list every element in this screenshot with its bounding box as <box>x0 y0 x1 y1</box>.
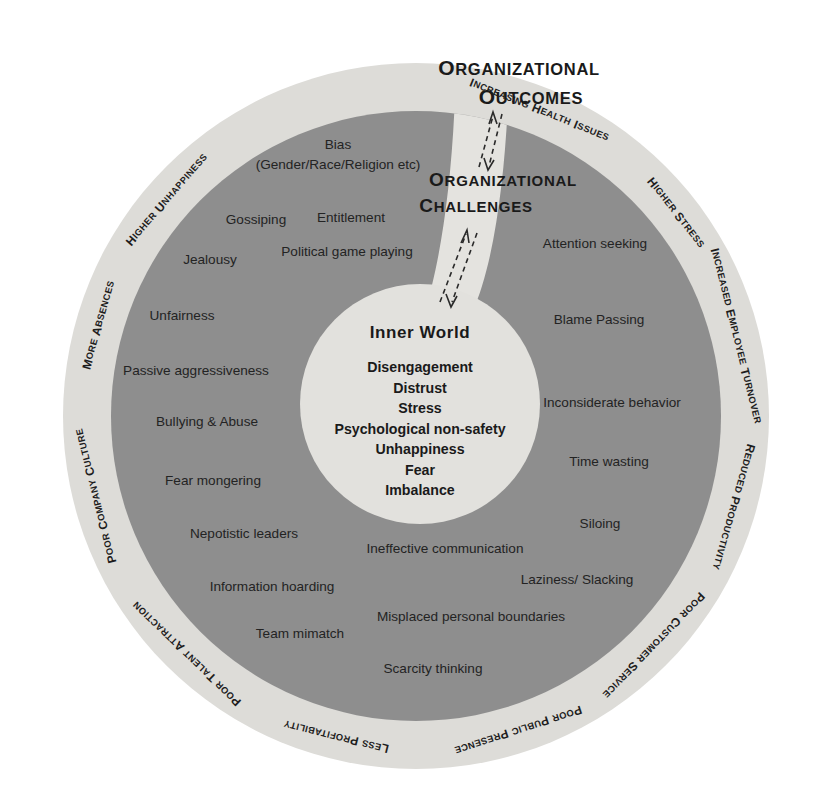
challenge-label: Political game playing <box>281 244 412 259</box>
challenge-label: Fear mongering <box>165 473 261 488</box>
challenge-label: Ineffective communication <box>367 541 524 556</box>
challenge-label: Nepotistic leaders <box>190 526 298 541</box>
challenge-label: Jealousy <box>183 252 237 267</box>
challenge-label: Bullying & Abuse <box>156 414 258 429</box>
challenge-label: (Gender/Race/Religion etc) <box>256 157 421 172</box>
challenges-line-2: CHALLENGES <box>419 195 532 216</box>
challenge-label: Inconsiderate behavior <box>543 395 681 410</box>
challenge-label: Gossiping <box>226 212 286 227</box>
challenge-label: Information hoarding <box>210 579 335 594</box>
challenge-label: Team mimatch <box>256 626 344 641</box>
inner-world-item: Stress <box>398 400 441 416</box>
challenge-label: Entitlement <box>317 210 385 225</box>
challenge-label: Attention seeking <box>543 236 647 251</box>
challenge-label: Blame Passing <box>554 312 645 327</box>
diagram-canvas: INCREASING HEALTH ISSUESHIGHER STRESSINC… <box>0 0 828 807</box>
challenge-label: Bias <box>325 137 352 152</box>
challenge-label: Siloing <box>580 516 621 531</box>
challenge-label: Misplaced personal boundaries <box>377 609 565 624</box>
inner-world-item: Imbalance <box>385 482 455 498</box>
inner-world-item: Distrust <box>393 380 447 396</box>
inner-world-item: Disengagement <box>367 359 473 375</box>
inner-world-title: Inner World <box>370 323 471 342</box>
challenge-label: Unfairness <box>150 308 215 323</box>
challenge-label: Laziness/ Slacking <box>521 572 634 587</box>
challenges-line-1: ORGANIZATIONAL <box>429 169 577 190</box>
inner-world-item: Psychological non-safety <box>334 421 505 437</box>
organizational-inner-world-diagram: INCREASING HEALTH ISSUESHIGHER STRESSINC… <box>0 0 828 807</box>
outcomes-line-1: ORGANIZATIONAL <box>438 56 600 79</box>
challenge-label: Time wasting <box>569 454 649 469</box>
challenge-label: Scarcity thinking <box>384 661 483 676</box>
inner-world-item: Fear <box>405 462 435 478</box>
inner-world-item: Unhappiness <box>375 441 464 457</box>
outcomes-line-2: OUTCOMES <box>479 85 584 108</box>
challenge-label: Passive aggressiveness <box>123 363 269 378</box>
